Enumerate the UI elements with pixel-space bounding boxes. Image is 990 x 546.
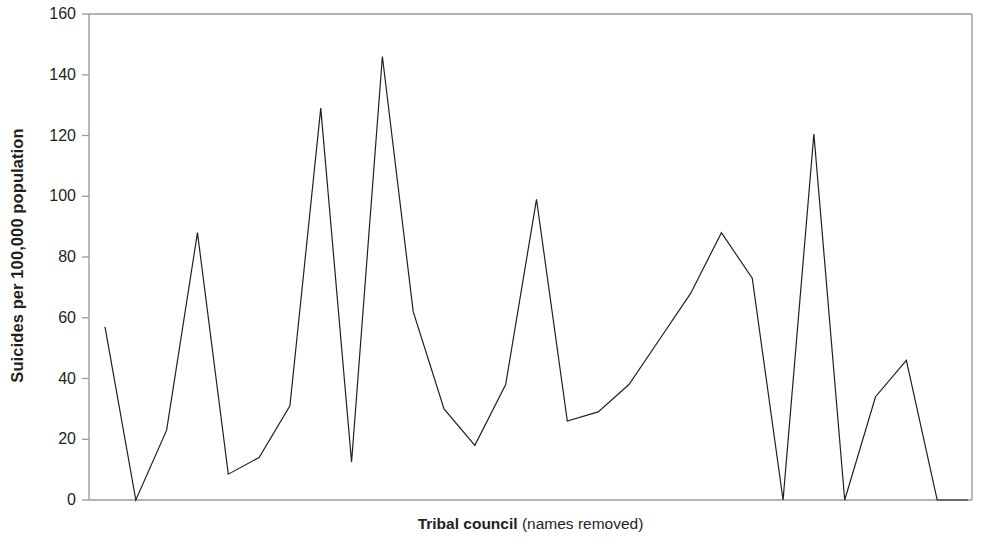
data-series-line	[105, 57, 968, 500]
x-axis-title-bold: Tribal council	[418, 515, 518, 532]
x-axis-title: Tribal council (names removed)	[89, 515, 972, 533]
chart-figure: Suicides per 100,000 population Tribal c…	[0, 0, 990, 546]
y-tick-label-100: 100	[30, 188, 76, 204]
y-axis-ticks	[82, 14, 89, 500]
y-tick-label-20: 20	[30, 431, 76, 447]
axis-lines	[89, 14, 972, 500]
y-tick-label-160: 160	[30, 6, 76, 22]
x-axis-title-plain: (names removed)	[518, 515, 644, 532]
y-tick-label-60: 60	[30, 310, 76, 326]
y-tick-label-80: 80	[30, 249, 76, 265]
y-tick-label-40: 40	[30, 371, 76, 387]
y-tick-label-140: 140	[30, 67, 76, 83]
y-tick-label-120: 120	[30, 128, 76, 144]
plot-canvas	[0, 0, 990, 546]
y-tick-label-0: 0	[30, 492, 76, 508]
